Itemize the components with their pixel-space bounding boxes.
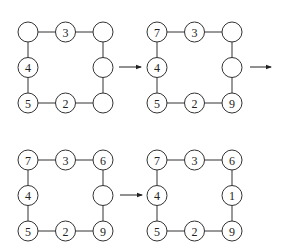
node-circle	[93, 186, 113, 206]
node-value: 1	[229, 189, 235, 203]
node-mid-right: 1	[222, 186, 242, 206]
node-value: 7	[154, 26, 160, 40]
node-top-left: 7	[147, 150, 167, 170]
node-bot-right	[93, 93, 113, 113]
node-circle	[222, 22, 242, 42]
node-top-left: 7	[18, 150, 38, 170]
node-value: 3	[192, 26, 198, 40]
node-circle	[222, 58, 242, 78]
node-bot-mid: 2	[185, 93, 205, 113]
node-mid-left: 4	[147, 58, 167, 78]
panel-step-4: 73641529	[147, 150, 242, 241]
node-circle	[93, 58, 113, 78]
node-value: 2	[192, 225, 198, 239]
node-value: 7	[25, 154, 31, 168]
node-mid-right	[93, 58, 113, 78]
node-value: 5	[154, 225, 160, 239]
node-value: 6	[229, 154, 235, 168]
node-top-mid: 3	[185, 22, 205, 42]
node-top-left	[18, 22, 38, 42]
node-mid-left: 4	[147, 186, 167, 206]
node-circle	[93, 22, 113, 42]
node-value: 2	[63, 225, 69, 239]
node-value: 4	[25, 61, 31, 75]
node-value: 2	[63, 97, 69, 111]
node-value: 6	[100, 154, 106, 168]
node-top-right: 6	[93, 150, 113, 170]
node-top-mid: 3	[56, 22, 76, 42]
node-mid-left: 4	[18, 58, 38, 78]
panel-step-3: 7364529	[18, 150, 113, 241]
node-value: 5	[25, 225, 31, 239]
node-top-left: 7	[147, 22, 167, 42]
node-top-right	[222, 22, 242, 42]
node-value: 2	[192, 97, 198, 111]
puzzle-diagram: 3452734529736452973641529	[0, 0, 287, 252]
node-value: 4	[154, 189, 160, 203]
node-bot-right: 9	[93, 221, 113, 241]
node-bot-mid: 2	[56, 93, 76, 113]
node-value: 7	[154, 154, 160, 168]
node-circle	[18, 22, 38, 42]
node-top-mid: 3	[185, 150, 205, 170]
node-top-right: 6	[222, 150, 242, 170]
node-circle	[93, 93, 113, 113]
node-value: 9	[229, 97, 235, 111]
node-mid-left: 4	[18, 186, 38, 206]
node-value: 4	[25, 189, 31, 203]
node-value: 9	[100, 225, 106, 239]
node-bot-left: 5	[147, 221, 167, 241]
node-value: 9	[229, 225, 235, 239]
node-value: 5	[25, 97, 31, 111]
node-top-mid: 3	[56, 150, 76, 170]
node-value: 3	[192, 154, 198, 168]
node-bot-left: 5	[18, 221, 38, 241]
node-value: 3	[63, 26, 69, 40]
node-value: 4	[154, 61, 160, 75]
node-bot-right: 9	[222, 93, 242, 113]
node-bot-mid: 2	[56, 221, 76, 241]
node-value: 5	[154, 97, 160, 111]
panel-step-1: 3452	[18, 22, 113, 113]
node-bot-mid: 2	[185, 221, 205, 241]
node-bot-left: 5	[147, 93, 167, 113]
node-value: 3	[63, 154, 69, 168]
node-mid-right	[222, 58, 242, 78]
panel-step-2: 734529	[147, 22, 242, 113]
node-bot-left: 5	[18, 93, 38, 113]
node-bot-right: 9	[222, 221, 242, 241]
node-mid-right	[93, 186, 113, 206]
node-top-right	[93, 22, 113, 42]
